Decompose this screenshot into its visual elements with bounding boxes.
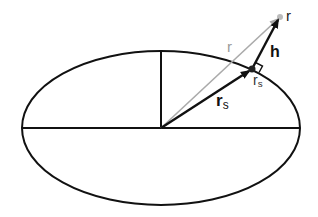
r-endpoint-dot [277,14,283,20]
rs-vector-label-main: r [216,91,223,110]
diagram-canvas [0,0,318,217]
rs-point-label-sub: s [258,78,263,89]
r-vector-label: r [227,39,232,54]
rs-point-label: rs [253,73,263,89]
h-vector-label: h [270,44,280,60]
rs-vector [161,71,249,128]
rs-vector-label-sub: s [223,98,229,112]
rs-vector-label: rs [216,92,229,112]
r-endpoint-label: r [286,8,291,23]
